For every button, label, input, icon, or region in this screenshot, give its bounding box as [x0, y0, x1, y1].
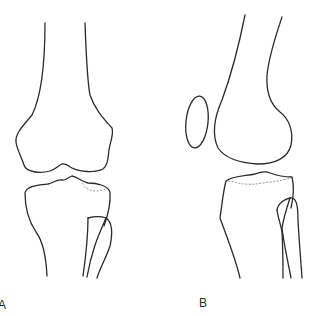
fibula-b	[277, 198, 302, 278]
femur-b	[215, 15, 292, 164]
fibula-a	[88, 217, 112, 278]
fibula-a-inner	[83, 218, 88, 276]
fibula-a-cross	[87, 218, 106, 277]
panel-a-drawing	[16, 23, 113, 278]
panel-label-a: A	[0, 298, 6, 312]
panel-b-drawing	[183, 15, 302, 278]
femur-a	[16, 23, 113, 172]
tibia-b-plateau-dash	[228, 178, 291, 184]
knee-diagram	[0, 0, 311, 316]
tibia-a-plateau-dash	[82, 183, 107, 191]
patella-b	[183, 95, 210, 149]
fibula-b-inner	[277, 210, 283, 278]
panel-label-b: B	[199, 296, 207, 310]
